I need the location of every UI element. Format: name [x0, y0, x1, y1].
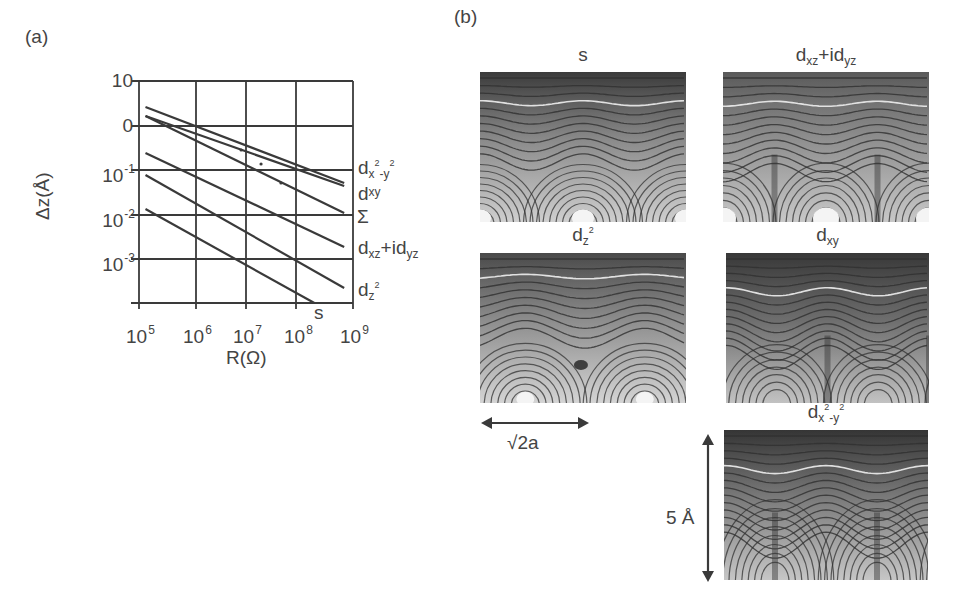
label-dxz-idyz: dxz+idyz — [358, 238, 418, 260]
label-dx2-y2: dx2-y2 — [358, 158, 395, 180]
map-title-dxz-idyz: dxz+idyz — [723, 44, 929, 68]
horizontal-scale-label: √2a — [507, 432, 539, 454]
map-title-s: s — [480, 44, 686, 66]
x-tick-1e5: 105 — [126, 323, 155, 348]
y-tick-1e-1: 10-1 — [102, 162, 135, 187]
vertical-scale-label: 5 Å — [666, 507, 695, 529]
map-title-dz2: dz2 — [480, 224, 686, 248]
map-title-dx2-y2: dx2-y2 — [724, 401, 928, 425]
label-dxy: dxy — [358, 184, 381, 203]
x-tick-1e9: 109 — [340, 323, 369, 348]
contour-map-dx2-y2 — [724, 430, 928, 580]
contour-map-dz2 — [480, 253, 686, 403]
label-dz2: dz2 — [358, 280, 380, 302]
contour-map-s — [480, 72, 686, 222]
label-s: s — [314, 303, 324, 322]
label-sigma: Σ — [357, 207, 369, 226]
contour-map-dxy — [726, 253, 929, 403]
x-tick-1e8: 108 — [284, 323, 313, 348]
x-tick-1e7: 107 — [233, 323, 262, 348]
chart-series — [145, 107, 344, 303]
y-tick-0: 0 — [122, 115, 133, 137]
chart-panel-a: 10 0 10-1 10-2 10-3 105 106 107 108 109 … — [0, 0, 460, 370]
x-axis-title: R(Ω) — [226, 347, 267, 369]
vertical-scale-arrow — [699, 434, 717, 582]
contour-map-dxz-idyz — [723, 72, 929, 222]
chart-svg — [0, 0, 460, 370]
series-line — [145, 175, 344, 288]
y-tick-1e-2: 10-2 — [102, 207, 135, 232]
series-line — [145, 116, 344, 213]
series-line — [145, 107, 344, 183]
y-tick-10: 10 — [112, 70, 133, 92]
series-line — [145, 153, 344, 247]
horizontal-scale-arrow — [481, 414, 589, 432]
y-axis-title: Δz(Å) — [36, 132, 58, 180]
map-title-dxy: dxy — [726, 224, 929, 248]
y-tick-1e-3: 10-3 — [102, 251, 135, 276]
x-tick-1e6: 106 — [183, 323, 212, 348]
